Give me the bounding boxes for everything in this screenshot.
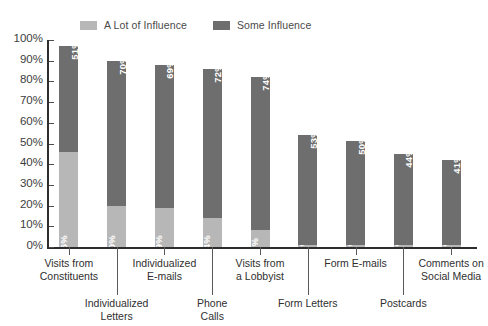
bar-segment-some-influence[interactable]: 41% (442, 160, 461, 245)
bar-segment-value-label: 14% (203, 235, 213, 247)
bar-group[interactable]: 50%1% (346, 141, 365, 247)
bar-segment-value-label: 50% (356, 141, 366, 155)
legend-label: Some Influence (237, 19, 311, 31)
legend-swatch-icon (80, 21, 97, 30)
category-connector-line (308, 247, 309, 295)
category-label: Visits from Constituents (23, 257, 115, 282)
bar-group[interactable]: 74%8% (251, 77, 270, 247)
bar-segment-a-lot-of-influence[interactable]: 46% (59, 152, 78, 247)
bar-segment-value-label: 8% (251, 238, 261, 247)
y-axis-tick-label: 0% (1, 239, 43, 251)
category-connector-line (356, 247, 357, 255)
bar-group[interactable]: 51%46% (59, 46, 78, 247)
category-label: Individualized E-mails (118, 257, 210, 282)
bar-segment-some-influence[interactable]: 72% (203, 69, 222, 218)
category-connector-line (164, 247, 165, 255)
bar-group[interactable]: 44%1% (394, 154, 413, 247)
y-axis-tick-label: 80% (1, 73, 43, 85)
y-axis-tick-label: 60% (1, 115, 43, 127)
category-connector-line (260, 247, 261, 255)
bar-segment-value-label: 44% (403, 154, 413, 168)
bar-segment-value-label: 51% (69, 46, 79, 60)
bar-segment-some-influence[interactable]: 50% (346, 141, 365, 245)
legend-label: A Lot of Influence (104, 19, 187, 31)
bar-group[interactable]: 69%19% (155, 65, 174, 247)
y-axis-tick-label: 70% (1, 94, 43, 106)
bar-segment-some-influence[interactable]: 69% (155, 65, 174, 208)
category-label: Postcards (357, 297, 449, 310)
bar-segment-value-label: 69% (164, 65, 174, 79)
category-label: Comments on Social Media (405, 257, 488, 282)
y-axis-tick-label: 40% (1, 156, 43, 168)
bar-segment-value-label: 20% (107, 235, 117, 247)
bar-segment-value-label: 70% (117, 61, 127, 75)
bar-group[interactable]: 70%20% (107, 61, 126, 247)
category-label-layer: Visits from ConstituentsIndividualized L… (47, 247, 482, 326)
bar-segment-value-label: 19% (155, 235, 165, 247)
category-connector-line (69, 247, 70, 255)
y-axis-tick-label: 100% (1, 32, 43, 44)
bar-group[interactable]: 72%14% (203, 69, 222, 247)
bar-segment-some-influence[interactable]: 74% (251, 77, 270, 230)
bar-group[interactable]: 41%1% (442, 160, 461, 247)
bar-segment-value-label: 46% (59, 235, 69, 247)
bar-segment-some-influence[interactable]: 51% (59, 46, 78, 152)
plot-area: 0%10%20%30%40%50%60%70%80%90%100% 51%46%… (47, 40, 477, 249)
category-label: Form Letters (262, 297, 354, 310)
chart-legend: A Lot of InfluenceSome Influence (80, 17, 410, 33)
y-axis-tick-label: 30% (1, 177, 43, 189)
bar-segment-some-influence[interactable]: 70% (107, 61, 126, 206)
bar-segment-a-lot-of-influence[interactable]: 8% (251, 230, 270, 247)
bar-segment-value-label: 72% (212, 69, 222, 83)
y-axis-tick-label: 50% (1, 136, 43, 148)
category-label: Individualized Letters (71, 297, 163, 322)
bar-segment-a-lot-of-influence[interactable]: 14% (203, 218, 222, 247)
bar-segment-value-label: 41% (451, 160, 461, 174)
bar-group[interactable]: 53%1% (298, 135, 317, 247)
bar-segment-value-label: 74% (260, 77, 270, 91)
category-connector-line (451, 247, 452, 255)
bar-segment-some-influence[interactable]: 53% (298, 135, 317, 245)
bar-segment-value-label: 53% (308, 135, 318, 149)
y-axis-tick-label: 90% (1, 53, 43, 65)
legend-entry: A Lot of Influence (80, 19, 187, 31)
legend-swatch-icon (213, 21, 230, 30)
category-label: Visits from a Lobbyist (214, 257, 306, 282)
legend-entry: Some Influence (213, 19, 311, 31)
y-axis-tick-label: 10% (1, 218, 43, 230)
category-label: Phone Calls (166, 297, 258, 322)
bar-segment-a-lot-of-influence[interactable]: 20% (107, 206, 126, 247)
bar-segment-some-influence[interactable]: 44% (394, 154, 413, 245)
category-label: Form E-mails (310, 257, 402, 270)
bar-segment-a-lot-of-influence[interactable]: 19% (155, 208, 174, 247)
y-axis-tick-label: 20% (1, 198, 43, 210)
bar-series-container: 51%46%70%20%69%19%72%14%74%8%53%1%50%1%4… (47, 40, 477, 248)
